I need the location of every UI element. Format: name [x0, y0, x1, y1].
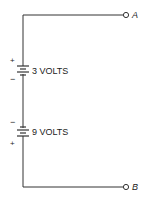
battery-3v — [17, 66, 29, 75]
terminal-a-icon — [123, 12, 128, 17]
battery-9v-label: 9 VOLTS — [32, 127, 68, 137]
wire-bottom — [23, 136, 123, 187]
terminal-b-label: B — [132, 182, 138, 192]
battery-3v-label: 3 VOLTS — [32, 66, 68, 76]
wires — [23, 15, 123, 187]
battery-9v-plus-sign: + — [10, 139, 15, 148]
battery-9v-minus-sign: − — [10, 117, 15, 127]
terminal-b-icon — [123, 184, 128, 189]
battery-3v-minus-sign: − — [10, 74, 15, 84]
circuit-diagram: + − 3 VOLTS − + 9 VOLTS A B — [0, 0, 148, 201]
battery-9v — [17, 127, 29, 136]
terminal-a-label: A — [131, 10, 138, 20]
wire-top — [23, 15, 123, 66]
battery-3v-plus-sign: + — [10, 56, 15, 65]
